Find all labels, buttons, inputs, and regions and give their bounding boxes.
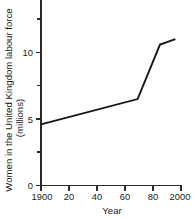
x-axis-title: Year bbox=[102, 205, 122, 216]
x-tick-label-1900: 1900 bbox=[32, 191, 53, 202]
y-axis-title-line2: (millions) bbox=[14, 99, 25, 137]
data-series-line bbox=[41, 39, 175, 124]
x-tick-label-1960: 60 bbox=[120, 191, 130, 202]
x-tick-label-2000: 2000 bbox=[170, 191, 191, 202]
y-tick-label-5: 5 bbox=[28, 114, 33, 125]
chart-plot-area: 0 5 10 1900 20 40 60 80 2000 Year Women … bbox=[0, 0, 194, 218]
y-tick-label-10: 10 bbox=[23, 47, 33, 58]
y-axis-title-line1: Women in the United Kingdom labour force bbox=[3, 8, 14, 191]
x-tick-label-1920: 20 bbox=[64, 191, 74, 202]
y-tick-label-0: 0 bbox=[28, 180, 33, 191]
line-chart-figure: 0 5 10 1900 20 40 60 80 2000 Year Women … bbox=[0, 0, 194, 218]
x-tick-label-1980: 80 bbox=[148, 191, 158, 202]
x-tick-label-1940: 40 bbox=[92, 191, 102, 202]
